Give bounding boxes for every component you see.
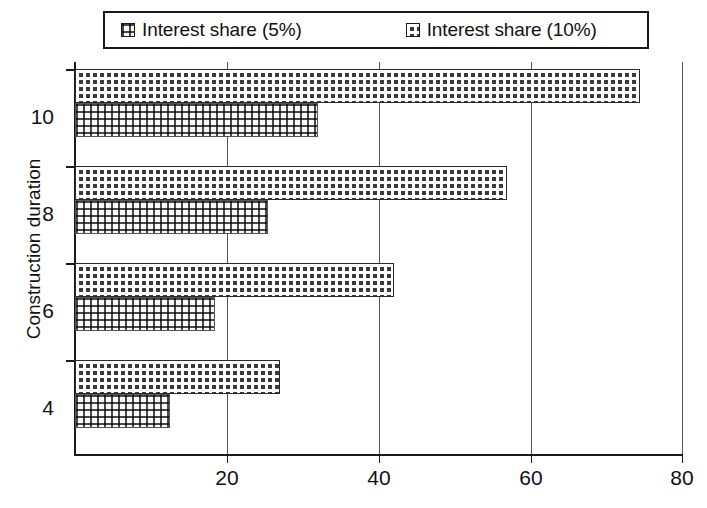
x-tick-20	[227, 454, 228, 463]
bar-interest-share-5-4	[75, 394, 170, 428]
bar-interest-share-10-10	[75, 69, 640, 103]
bar-interest-share-5-8	[75, 200, 268, 234]
x-tick-label-60: 60	[501, 466, 561, 490]
x-tick-60	[531, 454, 532, 463]
light-dotted-swatch-icon	[121, 23, 135, 37]
y-axis-title: Construction duration	[23, 119, 45, 379]
chart-legend: Interest share (5%) Interest share (10%)	[103, 11, 649, 49]
y-tick-label-4: 4	[42, 396, 54, 420]
plot-area: 10 8 6 4	[75, 62, 682, 454]
bar-interest-share-10-4	[75, 360, 280, 394]
gridline-40	[379, 62, 380, 454]
chart-root: Interest share (5%) Interest share (10%)…	[0, 0, 707, 508]
gridline-80	[682, 62, 683, 454]
bar-interest-share-5-10	[75, 103, 318, 137]
y-tick-label-8: 8	[42, 202, 54, 226]
legend-label: Interest share (5%)	[142, 19, 302, 41]
y-tick-label-10: 10	[31, 105, 54, 129]
bar-interest-share-10-6	[75, 263, 394, 297]
dark-dotted-swatch-icon	[406, 23, 420, 37]
x-tick-label-40: 40	[349, 466, 409, 490]
bar-interest-share-10-8	[75, 166, 507, 200]
x-tick-80	[682, 454, 683, 463]
legend-item-interest-share-10: Interest share (10%)	[406, 19, 597, 41]
x-tick-label-80: 80	[652, 466, 707, 490]
bar-interest-share-5-6	[75, 297, 215, 331]
y-tick-label-6: 6	[42, 299, 54, 323]
legend-label: Interest share (10%)	[427, 19, 597, 41]
x-tick-label-20: 20	[197, 466, 257, 490]
legend-item-interest-share-5: Interest share (5%)	[121, 19, 302, 41]
gridline-60	[531, 62, 532, 454]
x-tick-40	[379, 454, 380, 463]
